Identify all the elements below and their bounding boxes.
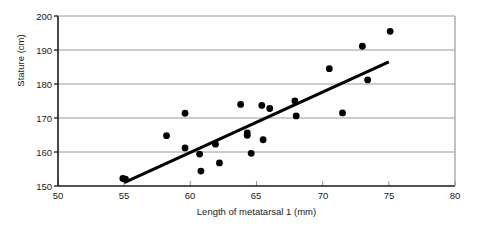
x-axis-label: Length of metatarsal 1 (mm): [58, 206, 455, 217]
data-point: [198, 168, 205, 175]
data-point: [291, 98, 298, 105]
y-axis-label: Stature (cm): [15, 11, 26, 111]
axis-frame: [58, 16, 455, 186]
data-point: [266, 105, 273, 112]
x-tick-label-70: 70: [308, 190, 338, 201]
data-point: [244, 132, 251, 139]
data-point: [182, 110, 189, 117]
y-tick-label-190: 190: [26, 45, 52, 56]
data-point: [182, 145, 189, 152]
fit-line-segment: [124, 62, 389, 183]
x-tick-label-80: 80: [440, 190, 470, 201]
data-point: [260, 136, 267, 143]
x-tick-label-55: 55: [109, 190, 139, 201]
x-tick-label-50: 50: [43, 190, 73, 201]
data-point: [216, 159, 223, 166]
data-point: [163, 132, 170, 139]
data-point: [359, 43, 366, 50]
scatter-chart-figure: Stature (cm) Length of metatarsal 1 (mm)…: [0, 0, 478, 235]
data-point: [237, 101, 244, 108]
x-tick-label-75: 75: [374, 190, 404, 201]
y-tick-label-200: 200: [26, 11, 52, 22]
data-point: [364, 77, 371, 84]
data-point: [258, 102, 265, 109]
gridlines-group: [58, 50, 455, 152]
data-point: [248, 150, 255, 157]
y-tick-label-180: 180: [26, 79, 52, 90]
x-tick-label-65: 65: [241, 190, 271, 201]
data-point: [196, 151, 203, 158]
y-tick-label-170: 170: [26, 113, 52, 124]
data-point: [212, 141, 219, 148]
x-tick-label-60: 60: [175, 190, 205, 201]
data-point: [293, 113, 300, 120]
data-points-group: [119, 28, 393, 183]
data-point: [387, 28, 394, 35]
y-tick-label-160: 160: [26, 147, 52, 158]
data-point: [339, 110, 346, 117]
data-point: [122, 176, 129, 183]
regression-line: [124, 62, 389, 183]
data-point: [326, 65, 333, 72]
